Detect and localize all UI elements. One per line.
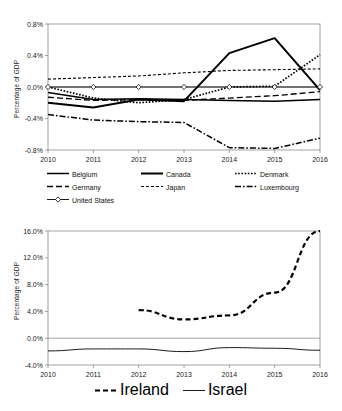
- svg-text:2010: 2010: [40, 156, 56, 163]
- legend-label-denmark: Denmark: [260, 170, 288, 180]
- svg-text:-4.0%: -4.0%: [25, 362, 43, 369]
- svg-text:2013: 2013: [176, 371, 192, 378]
- legend-swatch-canada: [141, 169, 163, 181]
- y-axis-title-top: Percentage of GDP: [13, 60, 20, 118]
- svg-text:2012: 2012: [131, 156, 147, 163]
- svg-text:2010: 2010: [40, 371, 56, 378]
- legend-label-canada: Canada: [166, 170, 191, 180]
- two-panel-line-chart-figure: Percentage of GDP 0.8%0.4%0.0%-0.4%-0.8%…: [0, 0, 342, 411]
- svg-text:2014: 2014: [222, 156, 238, 163]
- svg-text:0.4%: 0.4%: [27, 52, 43, 59]
- legend-label-ireland: Ireland: [120, 381, 169, 399]
- svg-text:0.0%: 0.0%: [27, 335, 43, 342]
- legend-swatch-denmark: [235, 169, 257, 181]
- chart-panel-bottom: Percentage of GDP 16.0%12.0%8.0%4.0%0.0%…: [0, 200, 342, 411]
- svg-text:2011: 2011: [86, 156, 101, 163]
- svg-text:2014: 2014: [222, 371, 238, 378]
- legend-swatch-japan: [141, 182, 163, 194]
- legend-swatch-luxembourg: [235, 182, 257, 194]
- svg-text:2015: 2015: [267, 156, 283, 163]
- legend-item-belgium: Belgium: [47, 169, 141, 181]
- legend-swatch-germany: [47, 182, 69, 194]
- svg-text:-0.8%: -0.8%: [25, 147, 43, 154]
- svg-text:16.0%: 16.0%: [23, 228, 43, 235]
- svg-text:0.0%: 0.0%: [27, 84, 43, 91]
- svg-text:2016: 2016: [312, 371, 328, 378]
- y-axis-title-bottom: Percentage of GDP: [13, 262, 20, 320]
- svg-text:8.0%: 8.0%: [27, 281, 43, 288]
- svg-text:2015: 2015: [267, 371, 283, 378]
- legend-swatch-ireland: [95, 381, 117, 399]
- svg-text:4.0%: 4.0%: [27, 308, 43, 315]
- legend-item-israel: Israel: [183, 381, 247, 399]
- svg-text:12.0%: 12.0%: [23, 254, 43, 261]
- svg-text:-0.4%: -0.4%: [25, 115, 43, 122]
- svg-text:2013: 2013: [176, 156, 192, 163]
- legend-swatch-israel: [183, 381, 205, 399]
- legend-label-israel: Israel: [208, 381, 247, 399]
- legend-item-denmark: Denmark: [235, 169, 329, 181]
- legend-label-japan: Japan: [166, 183, 185, 193]
- legend-row: Germany Japan Luxembourg: [47, 182, 342, 194]
- legend-row: Belgium Canada Denmark: [47, 169, 342, 181]
- legend-item-ireland: Ireland: [95, 381, 169, 399]
- legend-item-canada: Canada: [141, 169, 235, 181]
- legend-label-germany: Germany: [72, 183, 101, 193]
- plot-area-bottom: 16.0%12.0%8.0%4.0%0.0%-4.0%2010201120122…: [0, 200, 342, 411]
- svg-text:2011: 2011: [86, 371, 101, 378]
- legend-item-japan: Japan: [141, 182, 235, 194]
- legend-label-belgium: Belgium: [72, 170, 97, 180]
- legend-label-luxembourg: Luxembourg: [260, 183, 299, 193]
- svg-text:2012: 2012: [131, 371, 147, 378]
- legend-item-luxembourg: Luxembourg: [235, 182, 329, 194]
- legend-bottom: Ireland Israel: [0, 381, 342, 399]
- legend-item-germany: Germany: [47, 182, 141, 194]
- legend-swatch-belgium: [47, 169, 69, 181]
- svg-text:2016: 2016: [312, 156, 328, 163]
- svg-text:0.8%: 0.8%: [27, 21, 43, 28]
